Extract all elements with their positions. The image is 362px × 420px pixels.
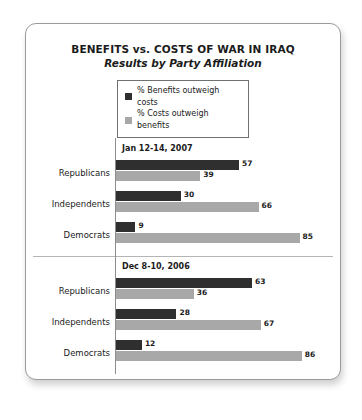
legend-item-costs: % Costs outweigh benefits — [125, 108, 241, 131]
panel-date-label: Jan 12-14, 2007 — [122, 144, 193, 153]
bar[interactable] — [116, 289, 194, 299]
bar-row: 28 — [116, 309, 176, 319]
chart-group: Independents3066 — [26, 191, 340, 221]
bar[interactable] — [116, 191, 181, 201]
legend-item-benefits: % Benefits outweigh costs — [125, 85, 241, 108]
bar-value-label: 63 — [255, 277, 265, 286]
panel-divider — [33, 256, 333, 257]
bar-value-label: 86 — [305, 350, 315, 359]
category-label: Republicans — [26, 168, 110, 178]
bar-value-label: 9 — [138, 221, 143, 230]
chart-group: Republicans5739 — [26, 160, 340, 190]
bar-row: 85 — [116, 233, 300, 243]
bar-row: 36 — [116, 289, 194, 299]
chart-group: Independents2867 — [26, 309, 340, 339]
panel-date-label: Dec 8-10, 2006 — [122, 262, 190, 271]
bar[interactable] — [116, 171, 200, 181]
bar-value-label: 12 — [145, 339, 155, 348]
bar[interactable] — [116, 233, 300, 243]
bar[interactable] — [116, 202, 259, 212]
bar-row: 57 — [116, 160, 239, 170]
legend-label-benefits: % Benefits outweigh costs — [137, 85, 241, 108]
bar[interactable] — [116, 278, 252, 288]
bar-value-label: 57 — [242, 159, 252, 168]
category-label: Independents — [26, 199, 110, 209]
chart-group: Democrats985 — [26, 222, 340, 252]
bar-row: 39 — [116, 171, 200, 181]
chart-group: Republicans6336 — [26, 278, 340, 308]
category-label: Democrats — [26, 348, 110, 358]
chart-title: BENEFITS vs. COSTS OF WAR IN IRAQ — [26, 43, 340, 56]
bar[interactable] — [116, 222, 135, 232]
bar-row: 86 — [116, 351, 302, 361]
bar[interactable] — [116, 309, 176, 319]
chart-panel: Jan 12-14, 2007Republicans5739Independen… — [26, 138, 340, 256]
chart-group: Democrats1286 — [26, 340, 340, 370]
bar-row: 66 — [116, 202, 259, 212]
bar-value-label: 36 — [197, 288, 207, 297]
bar-row: 9 — [116, 222, 135, 232]
bar-value-label: 67 — [264, 319, 274, 328]
category-label: Republicans — [26, 286, 110, 296]
bar[interactable] — [116, 320, 261, 330]
chart-subtitle: Results by Party Affiliation — [26, 56, 340, 70]
bar-value-label: 39 — [203, 170, 213, 179]
bar-value-label: 30 — [184, 190, 194, 199]
bar[interactable] — [116, 160, 239, 170]
chart-panels: Jan 12-14, 2007Republicans5739Independen… — [26, 138, 340, 374]
bar-value-label: 85 — [303, 232, 313, 241]
chart-panel: Dec 8-10, 2006Republicans6336Independent… — [26, 256, 340, 374]
legend-label-costs: % Costs outweigh benefits — [137, 108, 241, 131]
bar-value-label: 28 — [179, 308, 189, 317]
bar-value-label: 66 — [262, 201, 272, 210]
category-label: Independents — [26, 317, 110, 327]
bar-row: 67 — [116, 320, 261, 330]
category-label: Democrats — [26, 230, 110, 240]
chart-card: BENEFITS vs. COSTS OF WAR IN IRAQ Result… — [25, 23, 341, 380]
legend-swatch-benefits-icon — [125, 93, 132, 100]
chart-legend: % Benefits outweigh costs % Costs outwei… — [117, 80, 249, 137]
bar[interactable] — [116, 340, 142, 350]
title-block: BENEFITS vs. COSTS OF WAR IN IRAQ Result… — [26, 24, 340, 70]
bar[interactable] — [116, 351, 302, 361]
bar-row: 63 — [116, 278, 252, 288]
legend-swatch-costs-icon — [125, 117, 132, 124]
bar-row: 12 — [116, 340, 142, 350]
bar-row: 30 — [116, 191, 181, 201]
